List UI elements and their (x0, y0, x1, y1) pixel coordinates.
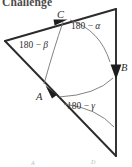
arrowheads (46, 20, 122, 99)
edge-botright-to-left (5, 41, 116, 156)
vector-label-C: C (57, 10, 64, 20)
angle-alpha-symbol: α (95, 21, 100, 31)
challenge-figure: Challenge C B A 1 (0, 0, 132, 167)
triangle-edges (5, 9, 116, 156)
angle-gamma-symbol: γ (91, 101, 95, 111)
vector-triangle-diagram (0, 0, 132, 167)
angle-label-gamma: 180 − γ (67, 101, 95, 111)
foot-label-A: A (31, 160, 35, 166)
angle-beta-symbol: β (43, 40, 48, 50)
angle-beta-prefix: 180 (19, 40, 36, 50)
foot-label-D: D (91, 159, 95, 165)
arc-beta (44, 22, 63, 84)
angle-alpha-prefix: 180 (71, 21, 88, 31)
arrowhead-B-icon (111, 65, 122, 80)
vector-label-A: A (36, 92, 42, 102)
vector-label-B: B (121, 63, 127, 73)
angle-gamma-prefix: 180 (67, 101, 84, 111)
arc-gamma (59, 78, 113, 97)
angle-label-beta: 180 − β (19, 40, 48, 50)
angle-label-alpha: 180 − α (71, 21, 100, 31)
